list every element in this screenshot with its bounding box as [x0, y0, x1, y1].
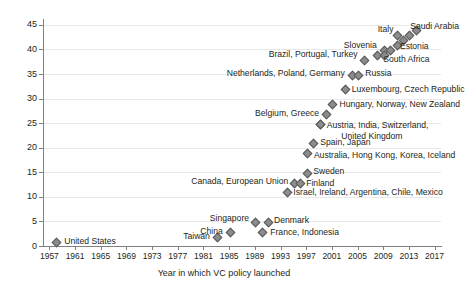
data-point-label: Israel, Ireland, Argentina, Chile, Mexic… [293, 187, 443, 197]
data-point-label: France, Indonesia [270, 227, 339, 237]
data-point-label: United Kingdom [341, 131, 402, 141]
data-point-label: South Africa [383, 54, 429, 64]
data-point-label: Luxembourg, Czech Republic [352, 84, 465, 94]
gridline [43, 148, 441, 149]
data-point-label: Estonia [400, 41, 429, 51]
x-tick-mark [332, 246, 333, 250]
data-point-label: Finland [306, 178, 334, 188]
data-point-label: Slovenia [344, 40, 377, 50]
x-tick-mark [383, 246, 384, 250]
data-point-label: Austria, India, Switzerland, [327, 120, 429, 130]
x-axis-title: Year in which VC policy launched [0, 268, 448, 279]
y-tick-label: 35 [17, 70, 37, 79]
x-tick-mark [281, 246, 282, 250]
data-point-label: Denmark [274, 215, 309, 225]
x-tick-mark [409, 246, 410, 250]
x-tick-mark [435, 246, 436, 250]
x-tick-mark [203, 246, 204, 250]
y-axis-line [43, 19, 44, 247]
x-tick-mark [101, 246, 102, 250]
gridline [43, 197, 441, 198]
x-tick-mark [49, 246, 50, 250]
x-tick-label: 2017 [418, 252, 452, 261]
x-tick-mark [178, 246, 179, 250]
y-tick-label: 30 [17, 94, 37, 103]
x-tick-mark [358, 246, 359, 250]
x-axis-line [43, 246, 442, 247]
y-tick-label: 15 [17, 168, 37, 177]
x-tick-mark [126, 246, 127, 250]
y-tick-label: 45 [17, 20, 37, 29]
data-point-label: Brazil, Portugal, Turkey [269, 49, 358, 59]
data-point-label: Hungary, Norway, New Zealand [340, 99, 461, 109]
data-point-label: Singapore [210, 213, 249, 223]
y-tick-label: 5 [17, 217, 37, 226]
x-tick-mark [75, 246, 76, 250]
x-tick-mark [229, 246, 230, 250]
data-point-label: Russia [365, 68, 391, 78]
data-point-label: Sweden [313, 166, 344, 176]
y-tick-label: 25 [17, 119, 37, 128]
data-point-label: China [200, 226, 222, 236]
data-point-label: Canada, European Union [191, 176, 288, 186]
y-tick-label: 10 [17, 192, 37, 201]
data-point-label: Netherlands, Poland, Germany [227, 68, 345, 78]
x-tick-mark [306, 246, 307, 250]
data-point-label: Saudi Arabia [410, 21, 459, 31]
data-point-label: Belgium, Greece [255, 108, 319, 118]
x-tick-mark [152, 246, 153, 250]
y-tick-label: 20 [17, 143, 37, 152]
y-tick-label: 40 [17, 45, 37, 54]
y-tick-label: 0 [17, 242, 37, 251]
gridline [43, 172, 441, 173]
data-point-label: Italy [378, 24, 394, 34]
x-tick-mark [255, 246, 256, 250]
data-point-label: Australia, Hong Kong, Korea, Iceland [314, 150, 455, 160]
data-point-label: United States [64, 236, 116, 246]
